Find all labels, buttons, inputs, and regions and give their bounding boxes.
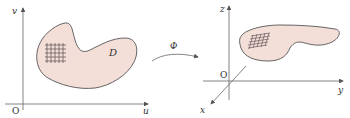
left-panel: v u O D: [5, 6, 149, 116]
diagram-canvas: v u O D Φ z y x O: [0, 0, 350, 118]
x-axis: [211, 66, 246, 104]
phi-arrow: [152, 54, 198, 61]
region-d: [37, 23, 137, 89]
phi-label: Φ: [170, 41, 177, 51]
origin-label-left: O: [12, 106, 19, 116]
mapping-arrow: Φ: [152, 41, 198, 61]
right-panel: z y x O: [200, 4, 344, 115]
y-axis-label: y: [337, 85, 344, 95]
x-axis-label: x: [200, 105, 205, 115]
v-axis-label: v: [12, 6, 17, 16]
region-label-d: D: [108, 47, 117, 58]
u-axis-label: u: [143, 106, 149, 116]
origin-label-right: O: [220, 70, 227, 80]
z-axis-label: z: [219, 4, 225, 14]
